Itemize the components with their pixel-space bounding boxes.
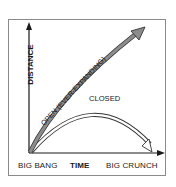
big-bang-label: BIG BANG [18, 161, 57, 170]
closed-curve-label: CLOSED [89, 94, 121, 103]
y-axis-label: DISTANCE [26, 44, 35, 84]
closed-arrowhead-icon [142, 139, 152, 152]
y-axis [26, 22, 32, 153]
x-axis [29, 150, 165, 156]
big-crunch-label: BIG CRUNCH [106, 161, 158, 170]
x-axis-label: TIME [70, 161, 90, 170]
universe-expansion-diagram: OPEN (EVER-EXPANDING) CLOSED [0, 0, 176, 187]
x-axis-arrow-icon [157, 150, 165, 156]
y-axis-arrow-icon [26, 22, 32, 30]
